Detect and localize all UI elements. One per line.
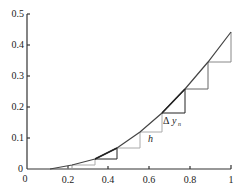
x-tick-0.2: 0.2 <box>62 174 75 185</box>
chart-svg: 0.5 0.4 0.3 0.2 0.1 0 0 0.2 0.4 0.6 0.8 … <box>0 0 244 192</box>
x-tick-labels: 0 0.2 0.4 0.6 0.8 1 <box>23 173 234 185</box>
label-delta: Δ <box>163 115 170 126</box>
y-tick-0.2: 0.2 <box>12 101 25 112</box>
x-tick-0.8: 0.8 <box>184 174 197 185</box>
step-triangles <box>50 32 231 169</box>
x-tick-1: 1 <box>229 174 234 185</box>
x-tick-0.6: 0.6 <box>143 174 156 185</box>
y-tick-0.1: 0.1 <box>12 132 25 143</box>
y-tick-0.3: 0.3 <box>12 70 25 81</box>
axes <box>27 14 231 169</box>
y-tick-0.5: 0.5 <box>12 8 25 19</box>
y-tick-0.4: 0.4 <box>12 39 25 50</box>
diagram-figure: 0.5 0.4 0.3 0.2 0.1 0 0 0.2 0.4 0.6 0.8 … <box>0 0 244 192</box>
x-tick-0.4: 0.4 <box>102 174 115 185</box>
label-subscript-n: n <box>178 121 181 127</box>
x-tick-0: 0 <box>23 173 28 184</box>
label-y: y <box>171 115 177 126</box>
label-h: h <box>148 133 153 144</box>
y-tick-labels: 0.5 0.4 0.3 0.2 0.1 0 <box>12 8 25 174</box>
